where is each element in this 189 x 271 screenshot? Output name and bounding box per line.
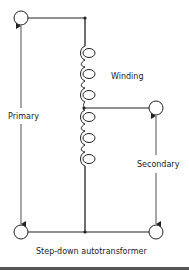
- autotransformer-diagram: Winding Primary Secondary Step-down auto…: [0, 0, 189, 271]
- winding-label: Winding: [111, 72, 143, 81]
- bottom-divider: [0, 267, 189, 270]
- diagram-caption: Step-down autotransformer: [36, 247, 147, 256]
- secondary-label: Secondary: [137, 160, 180, 169]
- common-bottom-left-terminal: [14, 225, 28, 239]
- winding-coil: [81, 46, 96, 166]
- secondary-tap-terminal: [149, 101, 163, 115]
- bottom-junction-dot: [83, 230, 86, 233]
- primary-label: Primary: [8, 112, 39, 121]
- primary-top-terminal: [14, 11, 28, 25]
- common-bottom-right-terminal: [149, 225, 163, 239]
